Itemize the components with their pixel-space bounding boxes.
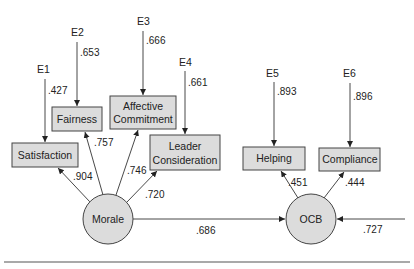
e2-label: E2 (71, 26, 84, 38)
satisfaction-label: Satisfaction (18, 149, 72, 161)
leader-loading: .720 (145, 189, 165, 200)
affective-label-line2: Commitment (113, 113, 173, 125)
morale-affective-arrow (116, 130, 138, 195)
fairness-loading: .757 (94, 137, 114, 148)
e3-coef: .666 (146, 35, 166, 46)
leader-consideration-box: Leader Consideration (150, 135, 220, 170)
affective-label-line1: Affective (123, 100, 163, 112)
morale-ocb-coef: .686 (196, 225, 216, 236)
ocb-node: OCB (286, 194, 336, 244)
sem-diagram: E1 E2 E3 E4 E5 E6 .427 .653 .666 .661 .8… (0, 0, 414, 269)
e5-coef: .893 (277, 86, 297, 97)
helping-box: Helping (243, 147, 305, 170)
e1-label: E1 (37, 63, 50, 75)
e3-label: E3 (137, 15, 150, 27)
affective-commitment-box: Affective Commitment (110, 96, 176, 129)
ocb-compliance-arrow (324, 172, 344, 198)
morale-node: Morale (83, 194, 133, 244)
morale-label: Morale (92, 213, 124, 225)
helping-loading: .451 (288, 177, 308, 188)
helping-label: Helping (256, 152, 292, 164)
e4-label: E4 (179, 56, 192, 68)
fairness-box: Fairness (52, 107, 102, 131)
e6-label: E6 (343, 67, 356, 79)
satisfaction-box: Satisfaction (12, 143, 78, 167)
e6-coef: .896 (353, 91, 373, 102)
ocb-label: OCB (300, 213, 323, 225)
compliance-label: Compliance (322, 153, 378, 165)
e1-coef: .427 (48, 85, 68, 96)
fairness-label: Fairness (57, 113, 97, 125)
satisfaction-loading: .904 (73, 171, 93, 182)
leader-label-line2: Consideration (153, 154, 218, 166)
affective-loading: .746 (127, 165, 147, 176)
compliance-loading: .444 (345, 177, 365, 188)
e4-coef: .661 (188, 77, 208, 88)
compliance-box: Compliance (319, 148, 380, 171)
leader-label-line1: Leader (169, 140, 202, 152)
ocb-disturbance-coef: .727 (363, 224, 383, 235)
e5-label: E5 (266, 67, 279, 79)
e2-coef: .653 (80, 47, 100, 58)
